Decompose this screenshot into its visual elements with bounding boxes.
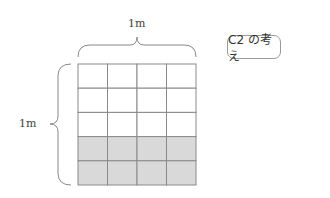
top-dimension-label: 1m bbox=[128, 17, 145, 30]
grid-cell-shaded bbox=[167, 137, 197, 161]
grid-cell bbox=[108, 88, 138, 112]
left-dimension-label: 1m bbox=[19, 117, 36, 130]
grid-cell bbox=[108, 112, 138, 136]
caption-box-label: C2 の考え bbox=[228, 30, 280, 64]
grid-cell bbox=[167, 112, 197, 136]
grid-cell-shaded bbox=[78, 137, 108, 161]
grid-cell-shaded bbox=[78, 161, 108, 185]
grid-cell bbox=[108, 64, 138, 88]
grid-cell bbox=[137, 112, 167, 136]
grid-cell bbox=[78, 112, 108, 136]
unit-grid bbox=[78, 64, 196, 185]
grid-diagram bbox=[0, 0, 330, 198]
grid-cell-shaded bbox=[108, 161, 138, 185]
grid-cell bbox=[137, 64, 167, 88]
grid-cell-shaded bbox=[137, 137, 167, 161]
left-brace bbox=[50, 64, 71, 185]
grid-cell-shaded bbox=[167, 161, 197, 185]
grid-cell bbox=[167, 88, 197, 112]
grid-cell bbox=[167, 64, 197, 88]
caption-box: C2 の考え bbox=[227, 35, 281, 59]
grid-cell bbox=[78, 88, 108, 112]
grid-cell-shaded bbox=[137, 161, 167, 185]
grid-cell bbox=[137, 88, 167, 112]
top-brace bbox=[78, 37, 196, 57]
grid-cell bbox=[78, 64, 108, 88]
grid-cell-shaded bbox=[108, 137, 138, 161]
